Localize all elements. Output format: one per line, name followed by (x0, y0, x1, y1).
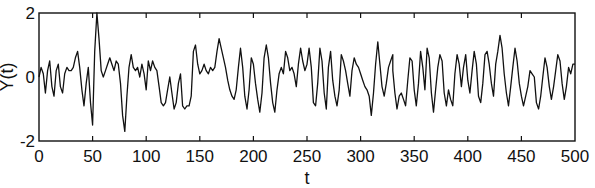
x-tick-label: 150 (186, 147, 214, 166)
x-tick-label: 350 (400, 147, 428, 166)
series-line-Y (39, 13, 575, 131)
x-tick-label: 0 (34, 147, 43, 166)
x-tick-label: 50 (83, 147, 102, 166)
x-tick-label: 300 (346, 147, 374, 166)
plot-area: 050100150200250300350400450500 -202 (20, 4, 589, 166)
x-tick-label: 250 (293, 147, 321, 166)
y-axis-ticks: -202 (20, 4, 35, 151)
y-tick-label: 2 (26, 4, 35, 23)
time-series-chart: 050100150200250300350400450500 -202 t Y(… (0, 0, 595, 188)
x-axis-label: t (304, 168, 309, 188)
y-tick-label: -2 (20, 132, 35, 151)
y-tick-label: 0 (26, 68, 35, 87)
x-tick-label: 500 (561, 147, 589, 166)
x-tick-label: 400 (454, 147, 482, 166)
x-tick-label: 450 (507, 147, 535, 166)
y-axis-label: Y(t) (0, 63, 17, 92)
x-tick-label: 100 (132, 147, 160, 166)
x-tick-label: 200 (239, 147, 267, 166)
